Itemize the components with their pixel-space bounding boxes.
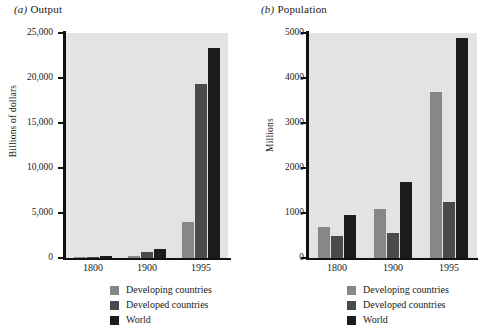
bar <box>374 209 386 259</box>
y-tick-label: 5000 <box>285 28 304 38</box>
y-tick-label: 20,000 <box>27 73 53 83</box>
bar <box>100 256 112 258</box>
panel-title-population: (b) Population <box>261 3 327 15</box>
legend-swatch-icon <box>347 301 356 310</box>
y-axis-label-output: Billions of dollars <box>8 61 18 181</box>
x-tick-label: 1800 <box>69 262 117 273</box>
panel-population: (b) Population Millions 0100020003000400… <box>247 0 494 332</box>
legend-item: World <box>110 313 212 327</box>
legend-item: Developing countries <box>347 283 449 297</box>
legend-population: Developing countriesDeveloped countriesW… <box>347 283 449 328</box>
x-axis-population <box>306 258 478 260</box>
y-tick-mark <box>58 212 66 214</box>
legend-label: Developed countries <box>363 300 445 310</box>
y-tick-label: 5,000 <box>32 208 53 218</box>
y-tick-label: 10,000 <box>27 163 53 173</box>
legend-output: Developing countriesDeveloped countriesW… <box>110 283 212 328</box>
panel-label-b: (b) <box>261 3 274 15</box>
bar <box>344 215 356 258</box>
y-tick-mark <box>58 122 66 124</box>
x-tick-label: 1995 <box>425 262 473 273</box>
bar <box>154 249 166 258</box>
y-tick-label: 25,000 <box>27 28 53 38</box>
y-tick-label: 0 <box>299 253 304 263</box>
bar <box>128 256 140 258</box>
x-tick-label: 1900 <box>369 262 417 273</box>
x-axis-output <box>63 258 231 260</box>
bar <box>182 222 194 258</box>
y-tick-label: 1000 <box>285 208 304 218</box>
bar <box>456 38 468 259</box>
x-tick-label: 1900 <box>123 262 171 273</box>
y-axis-label-population: Millions <box>265 75 275 195</box>
y-tick-mark <box>58 257 66 259</box>
legend-swatch-icon <box>110 316 119 325</box>
legend-swatch-icon <box>110 301 119 310</box>
bar <box>318 227 330 259</box>
legend-label: World <box>363 315 388 325</box>
panel-title-output: (a) Output <box>14 3 62 15</box>
y-axis-output <box>63 31 66 260</box>
y-tick-label: 4000 <box>285 73 304 83</box>
panel-label-a: (a) <box>14 3 27 15</box>
bar <box>387 233 399 258</box>
y-tick-mark <box>58 32 66 34</box>
bar <box>141 252 153 258</box>
legend-swatch-icon <box>347 286 356 295</box>
legend-label: Developed countries <box>126 300 208 310</box>
y-axis-population <box>306 31 309 260</box>
legend-item: World <box>347 313 449 327</box>
bar <box>430 92 442 259</box>
bar <box>331 236 343 259</box>
legend-item: Developed countries <box>347 298 449 312</box>
panel-title-text-a: Output <box>30 3 62 15</box>
legend-item: Developed countries <box>110 298 212 312</box>
panel-title-text-b: Population <box>277 3 327 15</box>
y-tick-label: 2000 <box>285 163 304 173</box>
x-tick-label: 1995 <box>177 262 225 273</box>
legend-label: World <box>126 315 151 325</box>
y-tick-label: 0 <box>48 253 53 263</box>
legend-swatch-icon <box>347 316 356 325</box>
y-tick-mark <box>58 77 66 79</box>
panel-output: (a) Output Billions of dollars 05,00010,… <box>0 0 247 332</box>
legend-item: Developing countries <box>110 283 212 297</box>
x-tick-label: 1800 <box>313 262 361 273</box>
bar <box>74 257 86 258</box>
bar <box>208 48 220 258</box>
legend-label: Developing countries <box>126 285 212 295</box>
y-tick-label: 3000 <box>285 118 304 128</box>
figure-container: (a) Output Billions of dollars 05,00010,… <box>0 0 494 332</box>
legend-swatch-icon <box>110 286 119 295</box>
bar <box>195 84 207 258</box>
bar <box>400 182 412 259</box>
y-tick-label: 15,000 <box>27 118 53 128</box>
bar <box>87 257 99 258</box>
legend-label: Developing countries <box>363 285 449 295</box>
y-tick-mark <box>58 167 66 169</box>
bar <box>443 202 455 258</box>
